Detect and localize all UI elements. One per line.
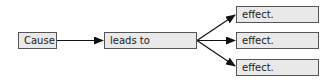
effect-box-1: effect.: [236, 6, 319, 23]
arrow-to-effect-3: [197, 41, 235, 67]
effect-label: effect.: [242, 62, 274, 73]
effect-box-2: effect.: [236, 32, 319, 49]
effect-box-3: effect.: [236, 59, 319, 76]
leads-to-box: leads to: [104, 32, 197, 49]
leads-to-label: leads to: [110, 35, 150, 46]
effect-label: effect.: [242, 9, 274, 20]
cause-label: Cause: [24, 35, 55, 46]
cause-box: Cause: [18, 32, 57, 49]
arrow-to-effect-1: [197, 15, 235, 41]
effect-label: effect.: [242, 35, 274, 46]
